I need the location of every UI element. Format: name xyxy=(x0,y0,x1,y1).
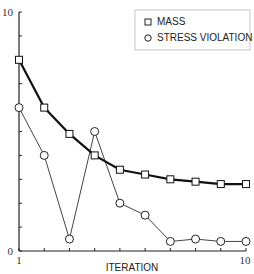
x-axis-max-label: 10 xyxy=(240,254,252,266)
circle-marker-icon xyxy=(91,128,99,136)
circle-marker-icon xyxy=(217,237,225,245)
legend-label-mass: MASS xyxy=(157,16,186,27)
circle-marker-icon xyxy=(242,237,250,245)
circle-marker-icon xyxy=(141,211,149,219)
legend: MASS STRESS VIOLATION xyxy=(135,10,252,50)
series-line xyxy=(19,108,246,242)
square-marker-icon xyxy=(91,152,98,159)
series-line xyxy=(19,60,246,184)
square-marker-icon xyxy=(167,176,174,183)
square-marker-icon xyxy=(192,178,199,185)
square-marker-icon xyxy=(66,130,73,137)
line-chart: 10 0 1 10 ITERATION MASS STRESS VIOLATIO… xyxy=(0,0,254,274)
square-marker-icon xyxy=(41,104,48,111)
circle-marker-icon xyxy=(116,199,124,207)
circle-marker-icon xyxy=(65,235,73,243)
legend-label-stress-violation: STRESS VIOLATION xyxy=(157,32,252,43)
square-marker-icon xyxy=(145,19,151,25)
circle-marker-icon xyxy=(192,235,200,243)
square-marker-icon xyxy=(217,181,224,188)
square-marker-icon xyxy=(142,171,149,178)
y-axis-min-label: 0 xyxy=(8,245,14,257)
square-marker-icon xyxy=(116,166,123,173)
square-marker-icon xyxy=(243,181,250,188)
series-mass xyxy=(16,56,250,187)
circle-marker-icon xyxy=(40,151,48,159)
circle-marker-icon xyxy=(145,35,151,41)
series-stress-violation xyxy=(15,104,250,246)
circle-marker-icon xyxy=(15,104,23,112)
x-axis-title: ITERATION xyxy=(106,262,159,273)
x-axis-min-label: 1 xyxy=(16,254,22,266)
square-marker-icon xyxy=(16,56,23,63)
legend-box xyxy=(135,10,250,50)
circle-marker-icon xyxy=(166,237,174,245)
y-axis-max-label: 10 xyxy=(2,6,14,18)
